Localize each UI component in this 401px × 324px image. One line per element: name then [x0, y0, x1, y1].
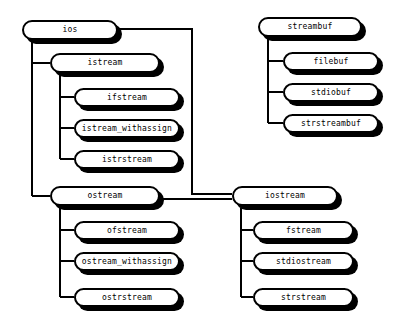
- class-node-ostream-withassign[interactable]: ostream_withassign: [74, 252, 180, 271]
- class-node-ios[interactable]: ios: [22, 20, 118, 40]
- class-node-ifstream[interactable]: ifstream: [74, 88, 180, 107]
- class-node-label: istream_withassign: [82, 125, 172, 133]
- class-node-label: ostream_withassign: [82, 258, 172, 266]
- class-node-label: ostream: [87, 192, 122, 200]
- class-node-filebuf[interactable]: filebuf: [283, 52, 379, 71]
- class-node-label: istream: [87, 59, 122, 67]
- class-node-label: istrstream: [102, 156, 152, 164]
- class-node-label: iostream: [265, 192, 305, 200]
- class-node-strstream[interactable]: strstream: [253, 288, 354, 307]
- class-node-label: stdiostream: [276, 258, 331, 266]
- class-node-label: ifstream: [107, 94, 147, 102]
- class-node-iostream[interactable]: iostream: [232, 186, 338, 206]
- class-node-ofstream[interactable]: ofstream: [74, 221, 180, 240]
- class-node-fstream[interactable]: fstream: [253, 221, 354, 240]
- class-node-label: strstreambuf: [301, 120, 361, 128]
- class-node-label: stdiobuf: [311, 89, 351, 97]
- class-node-istream-withassign[interactable]: istream_withassign: [74, 119, 180, 138]
- class-node-label: streambuf: [287, 23, 332, 31]
- class-node-strstreambuf[interactable]: strstreambuf: [283, 114, 379, 133]
- class-node-label: ostrstream: [102, 294, 152, 302]
- class-node-stdiostream[interactable]: stdiostream: [253, 252, 354, 271]
- class-node-label: fstream: [286, 227, 321, 235]
- class-node-stdiobuf[interactable]: stdiobuf: [283, 83, 379, 102]
- class-node-label: ofstream: [107, 227, 147, 235]
- class-node-istream[interactable]: istream: [50, 53, 160, 73]
- class-node-istrstream[interactable]: istrstream: [74, 150, 180, 169]
- class-node-ostrstream[interactable]: ostrstream: [74, 288, 180, 307]
- class-node-ostream[interactable]: ostream: [50, 186, 160, 206]
- connector-lines: [0, 0, 401, 324]
- class-node-label: ios: [62, 26, 77, 34]
- class-node-label: filebuf: [313, 58, 348, 66]
- class-node-streambuf[interactable]: streambuf: [258, 17, 362, 37]
- class-hierarchy-diagram: ios istream ifstream istream_withassign …: [0, 0, 401, 324]
- class-node-label: strstream: [281, 294, 326, 302]
